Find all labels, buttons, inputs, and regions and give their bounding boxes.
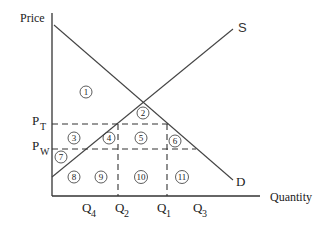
svg-text:T: T (40, 121, 46, 132)
svg-text:7: 7 (59, 152, 64, 162)
svg-text:8: 8 (72, 172, 77, 182)
area-5: 5 (135, 132, 147, 144)
svg-text:P: P (32, 138, 39, 153)
y-axis-label: Price (20, 11, 45, 25)
svg-text:6: 6 (173, 136, 178, 146)
svg-text:4: 4 (107, 133, 112, 143)
svg-text:3: 3 (72, 133, 77, 143)
area-6: 6 (169, 135, 181, 147)
demand-label: D (236, 174, 245, 189)
svg-text:3: 3 (202, 208, 207, 219)
tariff-diagram: Price Quantity D S P T P W Q 4 Q 2 Q 1 Q… (0, 0, 335, 228)
svg-text:1: 1 (84, 87, 89, 97)
svg-text:4: 4 (91, 208, 96, 219)
area-4: 4 (103, 132, 115, 144)
area-2: 2 (137, 107, 149, 119)
q4-label: Q 4 (82, 200, 96, 219)
svg-text:9: 9 (99, 172, 104, 182)
pt-label: P T (32, 113, 46, 132)
svg-text:W: W (40, 146, 50, 157)
supply-label: S (238, 20, 247, 35)
svg-text:10: 10 (137, 172, 147, 182)
svg-text:2: 2 (124, 208, 129, 219)
svg-text:P: P (32, 113, 39, 128)
area-10: 10 (135, 171, 148, 184)
x-axis-label: Quantity (270, 190, 312, 204)
area-7: 7 (55, 151, 67, 163)
area-3: 3 (68, 132, 80, 144)
pw-label: P W (32, 138, 50, 157)
svg-text:1: 1 (166, 208, 171, 219)
area-8: 8 (68, 171, 80, 183)
svg-text:11: 11 (178, 172, 187, 182)
q2-label: Q 2 (115, 200, 129, 219)
area-1: 1 (80, 86, 92, 98)
supply-curve (52, 29, 233, 177)
svg-text:5: 5 (139, 133, 144, 143)
area-9: 9 (95, 171, 107, 183)
svg-text:2: 2 (141, 108, 146, 118)
q3-label: Q 3 (193, 200, 207, 219)
q1-label: Q 1 (157, 200, 171, 219)
area-11: 11 (176, 171, 189, 184)
